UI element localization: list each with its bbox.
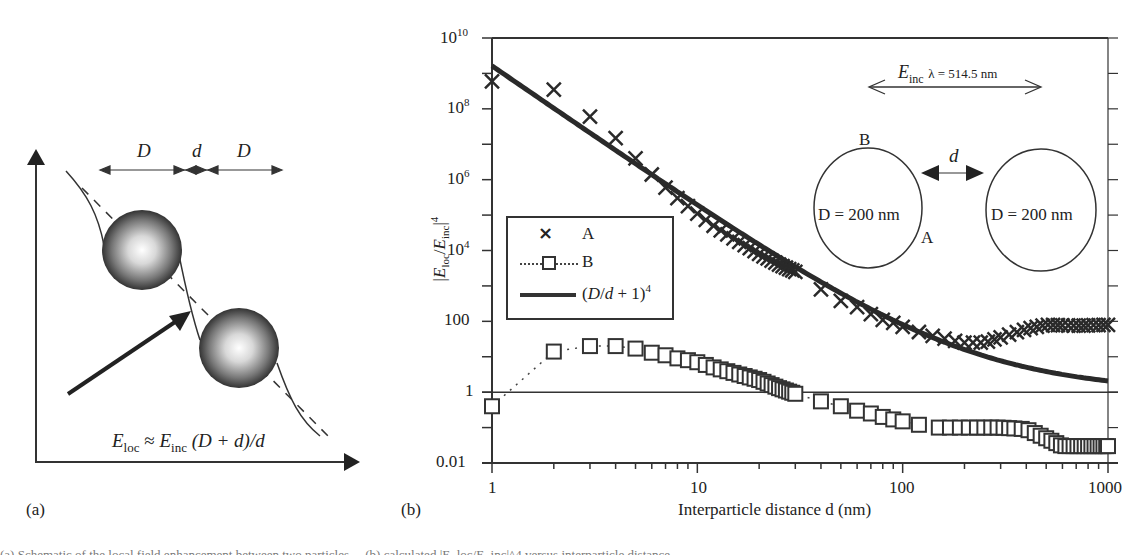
gap-arrow-right-icon — [966, 165, 984, 181]
series-b-point — [834, 399, 848, 413]
series-b-point — [583, 339, 597, 353]
y-axis-label: |Eloc/Einc|4 — [428, 169, 452, 329]
series-a-point — [547, 83, 561, 97]
series-a-point — [609, 131, 623, 145]
series-b-point — [609, 339, 623, 353]
legend-label-fit: (D/d + 1)4 — [582, 282, 651, 304]
particle-left-label: D = 200 nm — [818, 205, 900, 225]
series-b-point — [629, 342, 643, 356]
series-a-point — [690, 207, 704, 221]
panel-b-label: (b) — [401, 500, 421, 520]
series-b-point — [896, 414, 910, 428]
particle-left-text: D = 200 nm — [818, 205, 900, 224]
x-tick-1000: 1000 — [1088, 478, 1122, 498]
incident-field-label: Einc λ = 514.5 nm — [898, 62, 997, 87]
particle-right-text: D = 200 nm — [991, 205, 1073, 224]
series-a-point — [699, 213, 713, 227]
x-tick-100: 100 — [889, 478, 915, 498]
legend: × A B (D/d + 1)4 — [506, 216, 674, 320]
series-b-point — [814, 394, 828, 408]
y-tick-0.01: 0.01 — [436, 452, 466, 472]
point-label-A: A — [921, 228, 933, 248]
series-b-point — [912, 418, 926, 432]
series-b-point — [788, 387, 802, 401]
series-a-point — [645, 167, 659, 181]
x-axis-label: Interparticle distance d (nm) — [678, 500, 871, 520]
series-b-point — [645, 346, 659, 360]
gap-label-d: d — [949, 145, 959, 167]
solid-line-icon — [520, 293, 576, 297]
point-label-B: B — [859, 130, 870, 150]
legend-label-B: B — [582, 252, 593, 272]
series-a-point — [707, 219, 721, 233]
square-marker-icon — [542, 256, 556, 270]
y-tick-1e10: 1010 — [440, 26, 468, 48]
x-tick-10: 10 — [690, 478, 707, 498]
legend-item-A: × A — [520, 224, 670, 248]
field-symbol: E — [898, 62, 909, 82]
legend-item-B: B — [520, 252, 670, 276]
y-tick-1e8: 108 — [447, 96, 470, 118]
wavelength-label: λ = 514.5 nm — [928, 66, 997, 81]
gap-arrow-left-icon — [921, 165, 939, 181]
legend-item-fit: (D/d + 1)4 — [520, 282, 670, 306]
x-marker-icon: × — [538, 222, 553, 243]
series-b-point — [850, 404, 864, 418]
series-b-point — [547, 345, 561, 359]
legend-label-A: A — [582, 224, 594, 244]
particle-right-label: D = 200 nm — [991, 205, 1073, 225]
field-sub: inc — [909, 72, 924, 86]
series-a-point — [966, 336, 980, 350]
x-tick-1: 1 — [488, 478, 497, 498]
series-b-point — [1101, 439, 1115, 453]
y-tick-1: 1 — [465, 381, 474, 401]
series-a-point — [583, 110, 597, 124]
series-b-point — [485, 399, 499, 413]
figure-caption-partial: (a) Schematic of the local field enhance… — [0, 547, 1148, 555]
